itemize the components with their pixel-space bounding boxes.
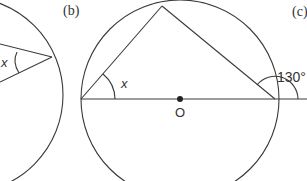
angle-label-a: x xyxy=(0,55,8,70)
circle-a xyxy=(0,0,63,181)
angle-arc-a xyxy=(15,52,19,73)
panel-label-c: (c) xyxy=(292,4,307,20)
chord-a-lower xyxy=(0,57,52,82)
panel-a: x xyxy=(0,0,63,181)
chord-b-right xyxy=(162,6,275,99)
circle-geometry-diagram: x (b) x O (c) 130° xyxy=(0,0,307,181)
circle-b xyxy=(81,0,279,181)
angle-label-c: 130° xyxy=(277,69,306,85)
panel-b: (b) x O xyxy=(63,0,307,181)
angle-arc-b xyxy=(103,74,115,99)
center-label-o: O xyxy=(175,105,185,120)
chord-a-upper xyxy=(0,44,52,57)
panel-c: (c) 130° xyxy=(257,4,307,99)
panel-label-b: (b) xyxy=(63,3,80,19)
angle-label-b: x xyxy=(120,76,128,91)
center-point-o xyxy=(177,96,183,102)
